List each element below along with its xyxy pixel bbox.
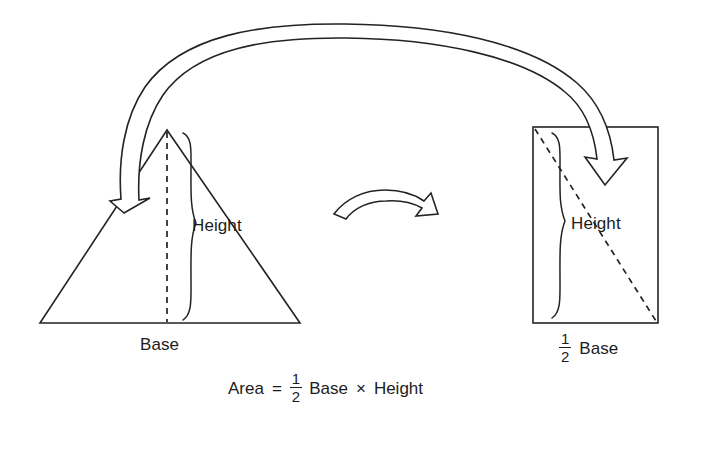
fraction-numerator: 1 xyxy=(559,331,571,347)
geometry-diagram: Height Height Base 1 2 Base Area = 1 2 B… xyxy=(0,0,702,458)
large-curved-transfer-arrow xyxy=(110,24,627,213)
rectangle-height-label: Height xyxy=(571,215,621,232)
rectangle-height-brace xyxy=(552,133,565,318)
half-fraction: 1 2 xyxy=(559,331,571,364)
triangle-shape xyxy=(40,130,300,323)
formula-term-height: Height xyxy=(374,379,423,399)
formula-half-fraction: 1 2 xyxy=(290,371,302,404)
rotation-arrow xyxy=(334,190,438,219)
triangle-height-label: Height xyxy=(192,217,242,234)
area-formula: Area = 1 2 Base × Height xyxy=(228,372,423,405)
fraction-denominator: 2 xyxy=(559,348,571,364)
formula-fraction-numerator: 1 xyxy=(290,371,302,387)
formula-equals-sign: = xyxy=(271,379,283,399)
rectangle-base-label-text: Base xyxy=(579,339,618,359)
rectangle-base-label: 1 2 Base xyxy=(559,332,618,365)
formula-multiply-sign: × xyxy=(355,379,367,399)
triangle-base-label: Base xyxy=(140,336,179,353)
formula-lhs: Area xyxy=(228,379,264,399)
formula-term-base: Base xyxy=(309,379,348,399)
formula-fraction-denominator: 2 xyxy=(290,388,302,404)
